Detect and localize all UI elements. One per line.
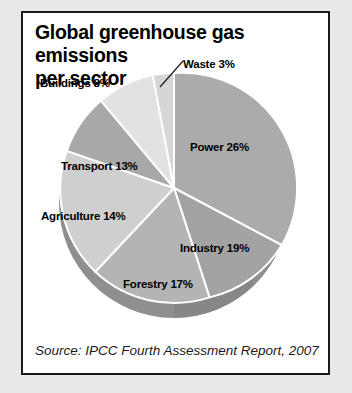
slice-label-forestry: Forestry 17%	[123, 278, 193, 290]
slice-label-buildings: Buildings 8%	[40, 77, 110, 89]
pie-slices	[60, 73, 297, 303]
chart-card: Global greenhouse gas emissions per sect…	[21, 11, 330, 375]
source-caption: Source: IPCC Fourth Assessment Report, 2…	[35, 343, 319, 358]
pie-chart-svg	[23, 13, 328, 373]
slice-label-agriculture: Agriculture 14%	[41, 210, 126, 222]
slice-label-transport: Transport 13%	[61, 160, 138, 172]
slice-label-power: Power 26%	[190, 141, 249, 153]
slice-label-industry: Industry 19%	[180, 242, 249, 254]
pie-chart: Waste 3% Buildings 8% Transport 13% Agri…	[23, 13, 328, 373]
slice-label-waste: Waste 3%	[183, 58, 235, 70]
